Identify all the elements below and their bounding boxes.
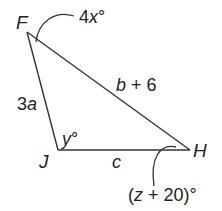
angle-label-f: 4x° <box>79 8 105 26</box>
angle-label-h: (z + 20)° <box>128 186 197 204</box>
side-label-jh: c <box>112 153 121 171</box>
vertex-label-h: H <box>193 141 207 160</box>
side-fj-coefficient: 3 <box>17 94 27 114</box>
angle-label-j: y° <box>62 130 78 148</box>
angle-f-variable: x <box>89 7 98 27</box>
side-fh-constant: + 6 <box>126 75 157 95</box>
side-fj <box>27 32 58 150</box>
side-fh <box>27 32 190 150</box>
side-label-fj: 3a <box>17 95 37 113</box>
angle-f-coefficient: 4 <box>79 7 89 27</box>
angle-f-arc <box>36 14 74 42</box>
vertex-label-f: F <box>16 13 28 32</box>
vertex-label-j: J <box>39 152 49 171</box>
triangle-diagram: F J H 3a b + 6 c 4x° y° (z + 20)° <box>0 0 222 211</box>
angle-j-variable: y <box>62 129 71 149</box>
side-fj-variable: a <box>27 94 37 114</box>
side-fh-variable: b <box>116 75 126 95</box>
angle-h-arc <box>153 146 176 186</box>
angle-f-degree: ° <box>98 7 105 27</box>
angle-h-rest: + 20)° <box>143 185 197 205</box>
side-label-fh: b + 6 <box>116 76 157 94</box>
angle-h-variable: z <box>134 185 143 205</box>
angle-j-degree: ° <box>71 129 78 149</box>
